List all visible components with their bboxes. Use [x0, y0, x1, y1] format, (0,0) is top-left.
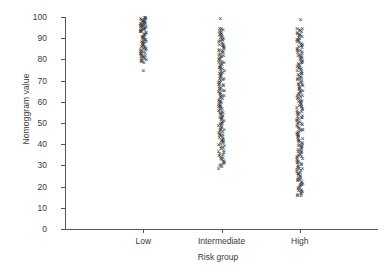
data-point: ×	[220, 92, 225, 99]
data-point: ×	[294, 106, 299, 113]
data-point: ×	[221, 51, 226, 58]
data-point: ×	[217, 89, 222, 96]
data-point: ×	[294, 122, 299, 129]
data-point: ×	[295, 169, 300, 176]
data-point: ×	[218, 15, 223, 22]
data-point: ×	[296, 141, 301, 148]
data-point: ×	[139, 27, 144, 34]
data-point: ×	[295, 118, 300, 125]
data-point: ×	[219, 27, 224, 34]
data-point: ×	[217, 89, 222, 96]
data-point: ×	[142, 36, 147, 43]
data-point: ×	[140, 41, 145, 48]
data-point: ×	[218, 66, 223, 73]
data-point: ×	[296, 60, 301, 67]
data-point: ×	[299, 142, 304, 149]
y-tick	[61, 102, 65, 103]
data-point: ×	[299, 67, 304, 74]
data-point: ×	[138, 57, 143, 64]
data-point: ×	[295, 119, 300, 126]
data-point: ×	[221, 42, 226, 49]
y-axis-line	[65, 17, 66, 230]
data-point: ×	[143, 35, 148, 42]
data-point: ×	[221, 80, 226, 87]
data-point: ×	[219, 25, 224, 32]
data-point: ×	[300, 33, 305, 40]
data-point: ×	[142, 26, 147, 33]
data-point: ×	[138, 19, 143, 26]
data-point: ×	[300, 82, 305, 89]
data-point: ×	[141, 19, 146, 26]
data-point: ×	[216, 147, 221, 154]
data-point: ×	[217, 31, 222, 38]
data-point: ×	[216, 106, 221, 113]
data-point: ×	[218, 102, 223, 109]
data-point: ×	[296, 184, 301, 191]
data-point: ×	[217, 79, 222, 86]
data-point: ×	[141, 32, 146, 39]
data-point: ×	[218, 125, 223, 132]
data-point: ×	[216, 81, 221, 88]
data-point: ×	[142, 18, 147, 25]
data-point: ×	[142, 31, 147, 38]
data-point: ×	[142, 55, 147, 62]
data-point: ×	[218, 61, 223, 68]
data-point: ×	[296, 33, 301, 40]
data-point: ×	[298, 178, 303, 185]
data-point: ×	[296, 37, 301, 44]
data-point: ×	[218, 85, 223, 92]
data-point: ×	[221, 44, 226, 51]
data-point: ×	[142, 16, 147, 23]
data-point: ×	[220, 87, 225, 94]
data-point: ×	[298, 65, 303, 72]
x-tick	[222, 229, 223, 233]
data-point: ×	[217, 54, 222, 61]
data-point: ×	[296, 145, 301, 152]
data-point: ×	[297, 83, 302, 90]
y-tick	[61, 38, 65, 39]
data-point: ×	[300, 179, 305, 186]
data-point: ×	[296, 36, 301, 43]
data-point: ×	[294, 38, 299, 45]
data-point: ×	[298, 100, 303, 107]
data-point: ×	[220, 39, 225, 46]
data-point: ×	[140, 34, 145, 41]
data-point: ×	[300, 48, 305, 55]
data-point: ×	[294, 156, 299, 163]
data-point: ×	[218, 63, 223, 70]
data-point: ×	[298, 89, 303, 96]
data-point: ×	[216, 50, 221, 57]
data-point: ×	[221, 144, 226, 151]
data-point: ×	[294, 104, 299, 111]
data-point: ×	[300, 188, 305, 195]
data-point: ×	[299, 107, 304, 114]
data-point: ×	[141, 41, 146, 48]
data-point: ×	[221, 82, 226, 89]
data-point: ×	[138, 47, 143, 54]
data-point: ×	[219, 115, 224, 122]
data-point: ×	[221, 43, 226, 50]
x-tick-label-low: Low	[135, 236, 151, 246]
data-point: ×	[221, 108, 226, 115]
data-point: ×	[221, 158, 226, 165]
data-point: ×	[217, 70, 222, 77]
data-point: ×	[218, 101, 223, 108]
x-tick	[143, 229, 144, 233]
data-point: ×	[298, 61, 303, 68]
data-point: ×	[220, 39, 225, 46]
data-point: ×	[299, 114, 304, 121]
data-point: ×	[296, 184, 301, 191]
data-point: ×	[296, 165, 301, 172]
data-point: ×	[221, 138, 226, 145]
plot-area: LowIntermediateHigh ××××××××××××××××××××…	[65, 17, 378, 229]
y-tick	[61, 229, 65, 230]
data-point: ×	[220, 94, 225, 101]
y-tick-label: 50	[38, 118, 47, 128]
data-point: ×	[295, 176, 300, 183]
data-point: ×	[298, 46, 303, 53]
data-point: ×	[297, 85, 302, 92]
data-point: ×	[217, 133, 222, 140]
data-point: ×	[298, 95, 303, 102]
data-point: ×	[216, 164, 221, 171]
data-point: ×	[295, 122, 300, 129]
